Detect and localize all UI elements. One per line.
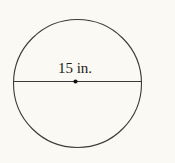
diameter-label: 15 in. <box>58 60 92 76</box>
circle-diameter-figure: 15 in. <box>0 0 175 163</box>
figure-canvas: 15 in. <box>0 0 175 163</box>
center-point <box>73 79 77 83</box>
